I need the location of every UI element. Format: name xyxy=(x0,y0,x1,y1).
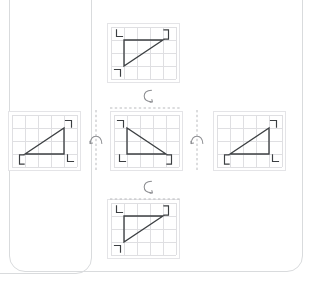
panel-left[interactable] xyxy=(8,111,81,171)
panel-center-canvas xyxy=(110,111,183,171)
panel-right[interactable] xyxy=(213,111,286,171)
panel-bottom[interactable] xyxy=(107,199,180,259)
panel-top[interactable] xyxy=(107,23,180,83)
panel-bottom-canvas xyxy=(107,199,180,259)
panel-center[interactable] xyxy=(110,111,183,171)
rotation-arrow-right xyxy=(188,133,206,153)
rotation-arrow-left xyxy=(87,133,105,153)
panel-right-canvas xyxy=(213,111,286,171)
panel-left-canvas xyxy=(8,111,81,171)
diagram-stage xyxy=(0,0,309,283)
rotation-arrow-top xyxy=(140,87,156,109)
panel-top-canvas xyxy=(107,23,180,83)
rotation-arrow-bottom xyxy=(140,178,156,200)
